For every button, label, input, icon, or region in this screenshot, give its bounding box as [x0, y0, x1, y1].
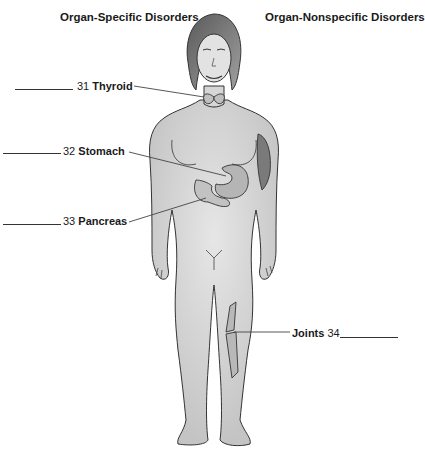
label-stomach: 32 Stomach — [63, 145, 125, 158]
label-name: Thyroid — [92, 80, 132, 92]
label-joints: Joints 34 — [292, 327, 340, 340]
answer-blank-32[interactable] — [3, 153, 61, 154]
answer-blank-34[interactable] — [340, 337, 398, 338]
label-number: 32 — [63, 145, 75, 157]
label-name: Joints — [292, 327, 324, 339]
label-name: Pancreas — [78, 215, 127, 227]
label-pancreas: 33 Pancreas — [63, 215, 127, 228]
label-number: 34 — [327, 327, 339, 339]
answer-blank-33[interactable] — [3, 224, 61, 225]
label-name: Stomach — [78, 145, 124, 157]
label-number: 31 — [77, 80, 89, 92]
answer-blank-31[interactable] — [15, 89, 73, 90]
label-thyroid: 31 Thyroid — [77, 80, 133, 93]
label-number: 33 — [63, 215, 75, 227]
